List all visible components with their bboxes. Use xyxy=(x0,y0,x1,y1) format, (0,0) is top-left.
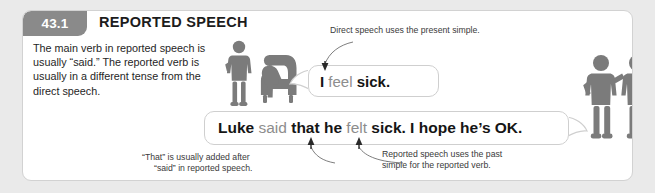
annotation-that-line1: “That” is usually added after xyxy=(142,152,250,162)
reported-token-0: Luke xyxy=(218,119,258,137)
screenshot-root: 43.1 REPORTED SPEECH The main verb in re… xyxy=(0,0,655,193)
page-title: REPORTED SPEECH xyxy=(99,14,248,30)
annotation-direct-speech: Direct speech uses the present simple. xyxy=(330,25,530,36)
annotation-that-added: “That” is usually added after “said” in … xyxy=(142,152,307,174)
annotation-past-line1: Reported speech uses the past xyxy=(382,149,502,159)
connector-direct-note xyxy=(309,31,369,81)
intro-paragraph: The main verb in reported speech is usua… xyxy=(33,41,218,98)
annotation-that-line2: “said” in reported speech. xyxy=(142,163,307,174)
annotation-past-line2: simple for the reported verb. xyxy=(382,160,491,170)
rule-number-badge: 43.1 xyxy=(23,11,87,36)
illustration-two-standing-people xyxy=(579,53,633,149)
annotation-past-simple: Reported speech uses the past simple for… xyxy=(382,149,562,171)
